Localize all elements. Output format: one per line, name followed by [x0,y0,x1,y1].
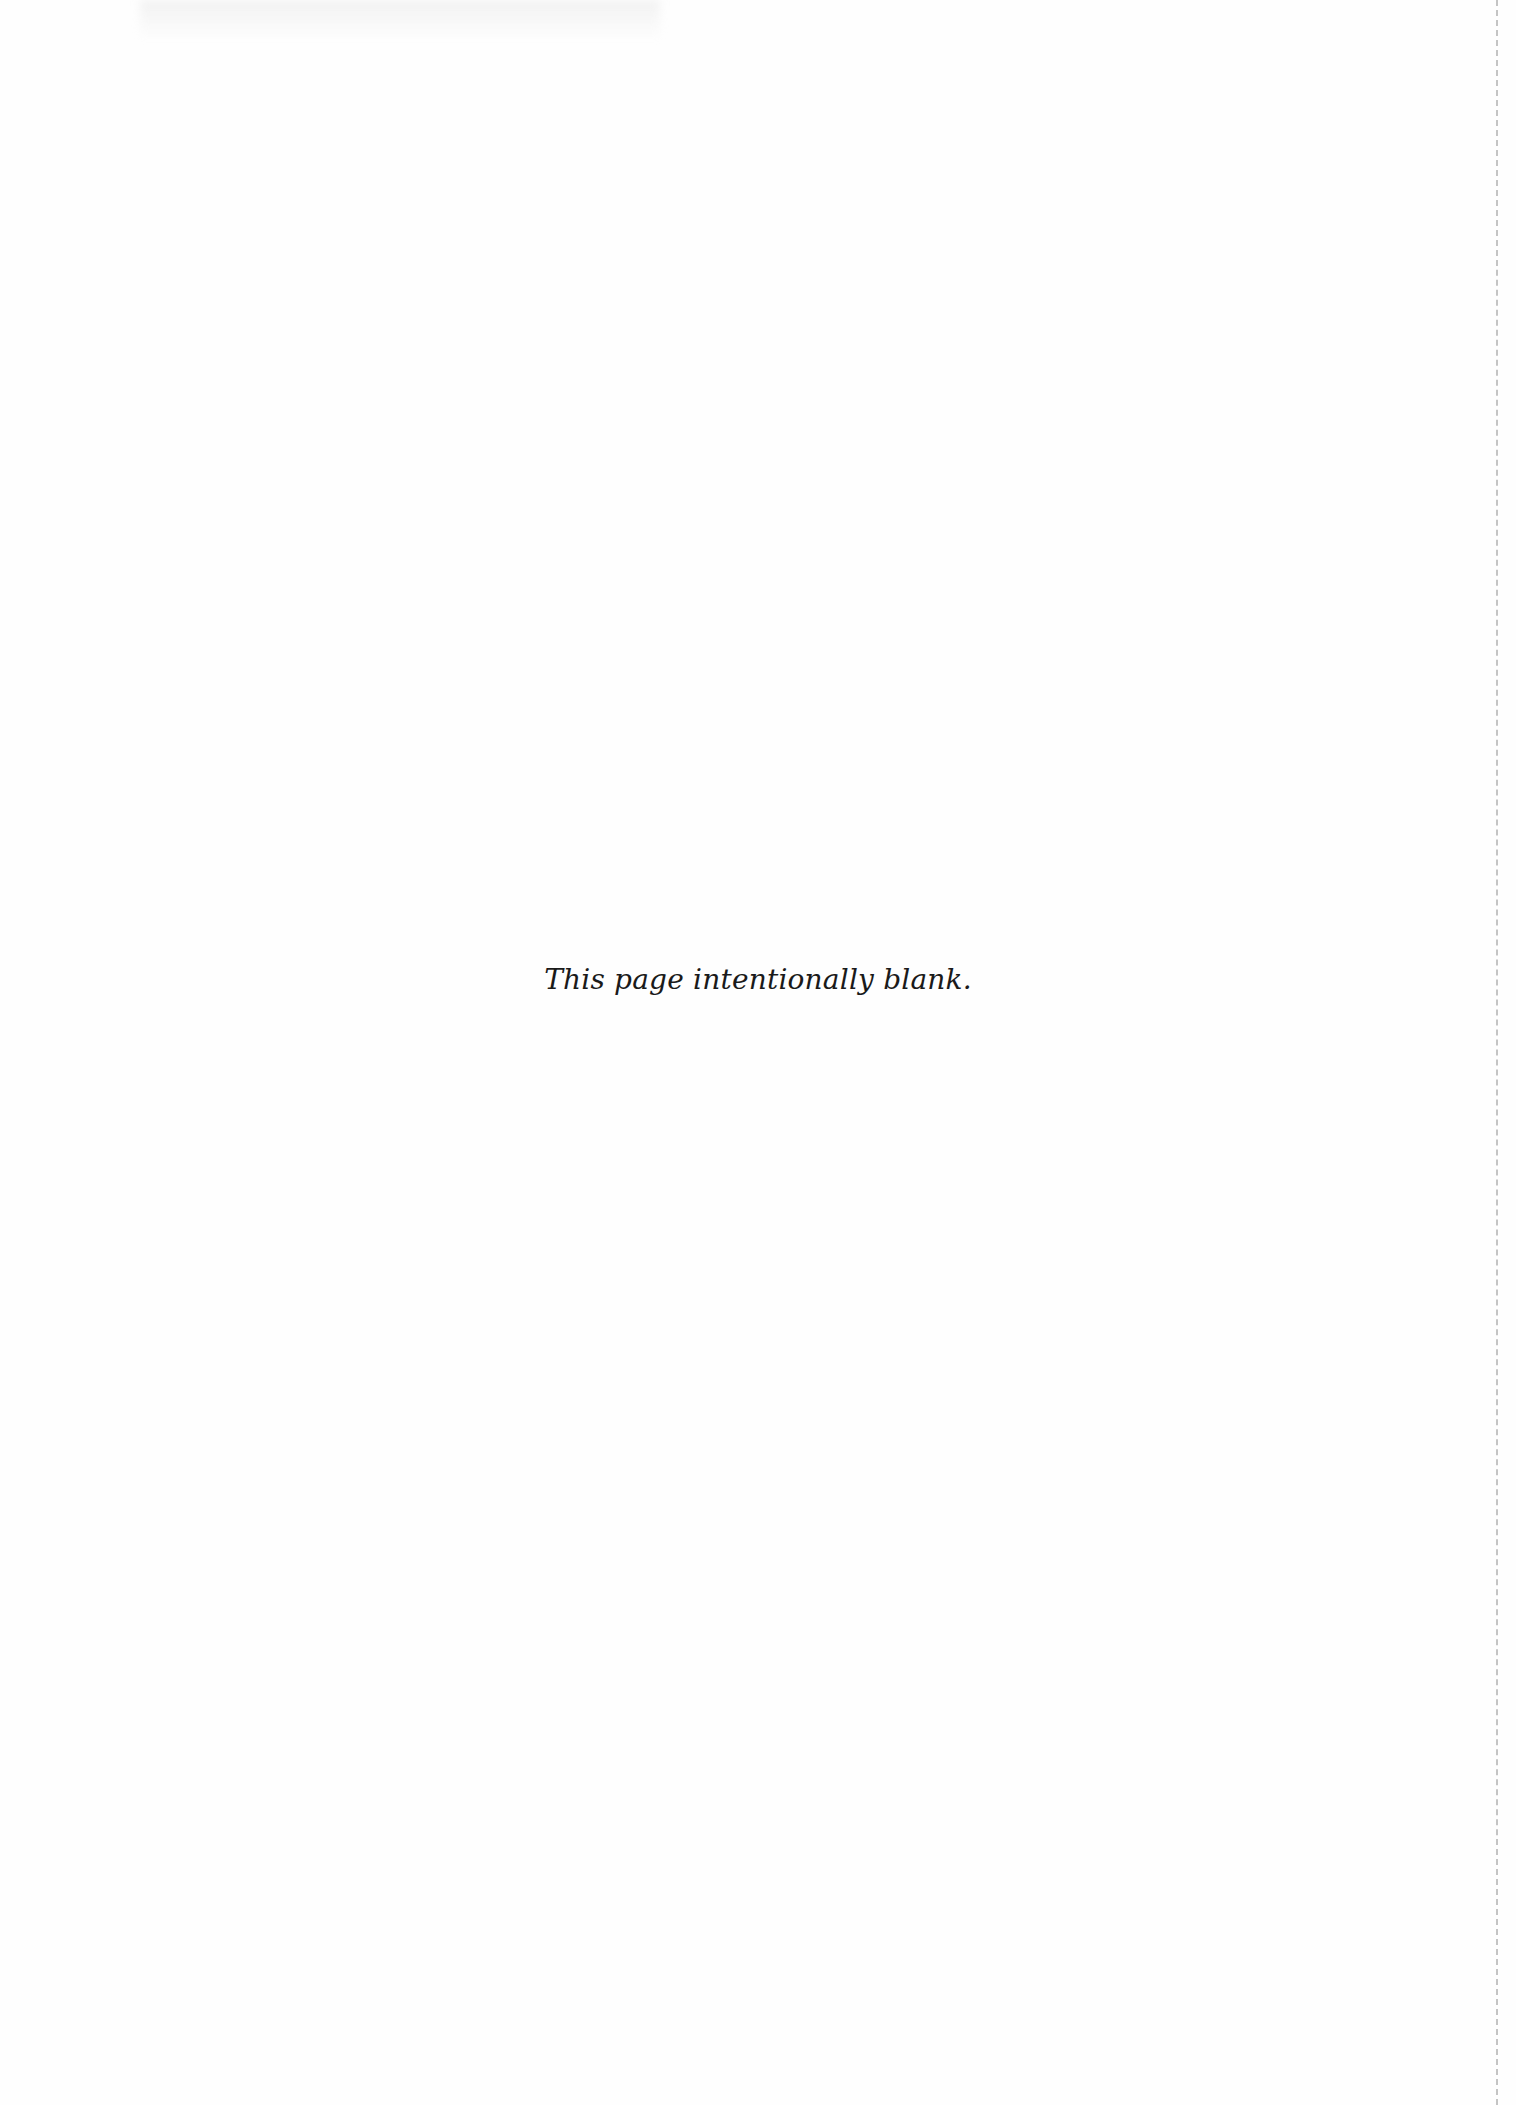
scan-artifact [140,0,660,40]
blank-page-notice: This page intentionally blank. [0,963,1516,996]
document-page: This page intentionally blank. [0,0,1516,2105]
page-edge-dashed-line [1496,0,1498,2105]
